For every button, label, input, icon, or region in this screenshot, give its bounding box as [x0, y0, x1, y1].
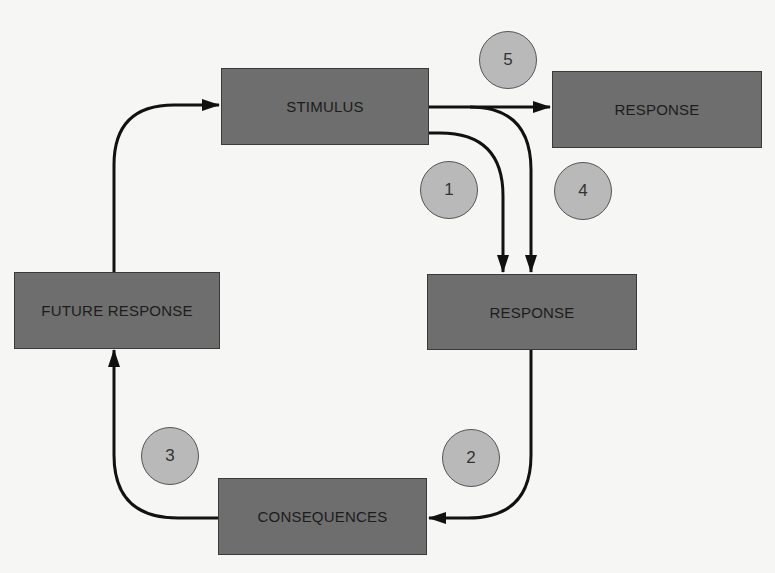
box-consequences: CONSEQUENCES: [218, 478, 427, 555]
box-response-top-label: RESPONSE: [615, 101, 700, 118]
marker-2-label: 2: [466, 448, 475, 468]
marker-4-label: 4: [578, 181, 587, 201]
box-consequences-label: CONSEQUENCES: [258, 508, 388, 525]
box-response-mid: RESPONSE: [427, 274, 637, 350]
box-stimulus: STIMULUS: [221, 68, 429, 145]
marker-5-label: 5: [503, 50, 512, 70]
marker-1-label: 1: [444, 180, 453, 200]
box-future-response: FUTURE RESPONSE: [14, 272, 220, 349]
arrow-future-to-stimulus: [114, 105, 219, 272]
arrow-stimulus-to-response-path4: [470, 107, 531, 272]
marker-3: 3: [141, 427, 199, 485]
box-response-top: RESPONSE: [552, 71, 762, 148]
box-stimulus-label: STIMULUS: [286, 98, 363, 115]
box-response-mid-label: RESPONSE: [490, 304, 575, 321]
marker-5: 5: [479, 31, 537, 89]
box-future-response-label: FUTURE RESPONSE: [41, 302, 192, 319]
marker-3-label: 3: [165, 446, 174, 466]
marker-4: 4: [554, 162, 612, 220]
marker-1: 1: [420, 161, 478, 219]
marker-2: 2: [442, 429, 500, 487]
